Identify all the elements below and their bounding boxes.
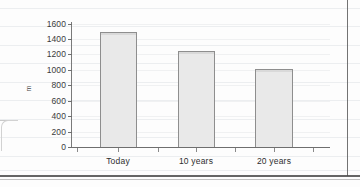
y-tick-label: 1600 (34, 19, 66, 29)
y-axis-title: m (25, 78, 32, 92)
y-tick-mark (68, 85, 72, 86)
y-tick-mark (68, 101, 72, 102)
bar-top-shade (179, 52, 214, 54)
y-tick-mark (68, 70, 72, 71)
bar-top-shade (101, 33, 136, 35)
x-category-label-today: Today (106, 156, 130, 166)
x-tick-mark (274, 148, 275, 152)
bar-chart: m 1600 1400 1200 1000 800 600 400 200 0 (0, 0, 360, 187)
x-category-label-10-years: 10 years (179, 156, 213, 166)
x-tick-mark (118, 148, 119, 152)
y-tick-mark (68, 39, 72, 40)
y-tick-label: 1200 (34, 49, 66, 59)
y-tick-label: 1400 (34, 34, 66, 44)
x-tick-mark (235, 148, 236, 152)
bar-top-shade (256, 70, 292, 72)
x-axis-line (71, 147, 330, 148)
bar-10-years[interactable] (178, 51, 215, 148)
x-tick-mark (77, 148, 78, 152)
bar-today[interactable] (100, 32, 137, 148)
y-tick-mark (68, 132, 72, 133)
y-tick-mark (68, 116, 72, 117)
y-tick-label: 1000 (34, 65, 66, 75)
x-tick-mark (313, 148, 314, 152)
x-tick-mark (158, 148, 159, 152)
y-tick-label: 0 (34, 142, 66, 152)
scanned-page-background: m 1600 1400 1200 1000 800 600 400 200 0 (0, 0, 360, 187)
gridline (71, 24, 330, 25)
y-tick-label: 800 (34, 80, 66, 90)
x-category-label-20-years: 20 years (257, 156, 291, 166)
y-tick-label: 400 (34, 111, 66, 121)
y-tick-label: 200 (34, 127, 66, 137)
bar-20-years[interactable] (255, 69, 293, 148)
y-tick-mark (68, 54, 72, 55)
y-tick-mark (68, 24, 72, 25)
y-tick-label: 600 (34, 96, 66, 106)
x-tick-mark (196, 148, 197, 152)
